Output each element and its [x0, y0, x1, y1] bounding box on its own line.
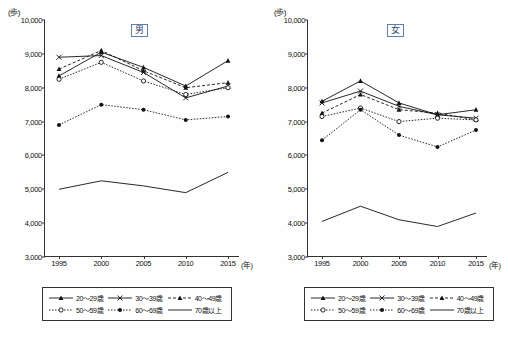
legend-male: 20～29歳30～39歳40～49歳50～59歳60～69歳70歳以上	[42, 287, 232, 321]
legend-item: 20～29歳	[48, 292, 107, 304]
x-axis-tick-mark	[476, 256, 477, 259]
legend-label: 70歳以上	[457, 305, 484, 315]
x-axis-tick-label: 2000	[94, 259, 110, 268]
legend-label: 50～59歳	[76, 305, 103, 315]
x-axis-tick-mark	[228, 256, 229, 259]
legend-marker-icon	[429, 305, 455, 315]
legend-label: 30～39歳	[397, 293, 424, 303]
legend-label: 40～49歳	[457, 293, 484, 303]
series-line	[59, 105, 228, 125]
y-axis-tick-mark	[42, 20, 45, 21]
legend-item: 70歳以上	[167, 304, 226, 316]
legend-marker-icon	[48, 305, 74, 315]
x-axis-tick-label: 1995	[314, 259, 330, 268]
legend-item: 50～59歳	[48, 304, 107, 316]
y-axis-tick-mark	[305, 20, 308, 21]
x-axis-tick-label: 2015	[468, 259, 484, 268]
legend-marker-icon	[369, 293, 395, 303]
y-axis-tick-mark	[42, 257, 45, 258]
y-axis-tick-mark	[305, 223, 308, 224]
legend-label: 50～59歳	[338, 305, 365, 315]
y-axis-tick-mark	[42, 189, 45, 190]
y-axis-tick-mark	[42, 121, 45, 122]
legend-marker-icon	[48, 293, 74, 303]
legend-marker-icon	[310, 305, 336, 315]
x-axis-tick-mark	[399, 256, 400, 259]
legend-marker-icon	[107, 305, 133, 315]
legend-label: 20～29歳	[338, 293, 365, 303]
chart-panel-female: (歩) 女 (年) 3,0004,0005,0006,0007,0008,000…	[254, 0, 508, 339]
plot-area-female: (年) 3,0004,0005,0006,0007,0008,0009,0001…	[307, 20, 487, 257]
legend-item: 70歳以上	[429, 304, 488, 316]
x-axis-tick-label: 2005	[136, 259, 152, 268]
y-axis-tick-mark	[305, 257, 308, 258]
y-axis-tick-mark	[305, 155, 308, 156]
y-axis-tick-mark	[42, 223, 45, 224]
legend-label: 70歳以上	[195, 305, 222, 315]
series-line	[322, 206, 476, 226]
x-axis-tick-mark	[101, 256, 102, 259]
x-axis-unit-label-female: (年)	[489, 259, 501, 270]
legend-label: 60～69歳	[135, 305, 162, 315]
legend-label: 60～69歳	[397, 305, 424, 315]
series-line	[59, 172, 228, 192]
x-axis-tick-mark	[59, 256, 60, 259]
x-axis-tick-label: 2005	[391, 259, 407, 268]
legend-item: 60～69歳	[107, 304, 166, 316]
y-axis-tick-mark	[42, 53, 45, 54]
y-axis-tick-mark	[42, 87, 45, 88]
x-axis-tick-label: 1995	[51, 259, 67, 268]
y-axis-unit-label-male: (歩)	[8, 6, 20, 17]
chart-panel-male: (歩) 男 (年) 3,0004,0005,0006,0007,0008,000…	[0, 0, 254, 339]
y-axis-tick-mark	[305, 121, 308, 122]
x-axis-tick-mark	[186, 256, 187, 259]
y-axis-tick-mark	[305, 189, 308, 190]
legend-label: 20～29歳	[76, 293, 103, 303]
plot-area-male: (年) 3,0004,0005,0006,0007,0008,0009,0001…	[44, 20, 239, 257]
legend-marker-icon	[107, 293, 133, 303]
legend-female: 20～29歳30～39歳40～49歳50～59歳60～69歳70歳以上	[304, 287, 494, 321]
chart-page: (歩) 男 (年) 3,0004,0005,0006,0007,0008,000…	[0, 0, 508, 339]
x-axis-tick-mark	[438, 256, 439, 259]
x-axis-tick-label: 2000	[353, 259, 369, 268]
legend-marker-icon	[429, 293, 455, 303]
legend-item: 20～29歳	[310, 292, 369, 304]
line-chart-male	[45, 20, 240, 257]
legend-marker-icon	[369, 305, 395, 315]
legend-item: 40～49歳	[429, 292, 488, 304]
legend-item: 30～39歳	[107, 292, 166, 304]
x-axis-tick-label: 2010	[178, 259, 194, 268]
legend-marker-icon	[310, 293, 336, 303]
x-axis-tick-mark	[322, 256, 323, 259]
y-axis-tick-mark	[42, 155, 45, 156]
legend-item: 30～39歳	[369, 292, 428, 304]
x-axis-unit-label-male: (年)	[241, 259, 253, 270]
legend-item: 60～69歳	[369, 304, 428, 316]
legend-item: 40～49歳	[167, 292, 226, 304]
legend-item: 50～59歳	[310, 304, 369, 316]
legend-marker-icon	[167, 293, 193, 303]
legend-label: 40～49歳	[195, 293, 222, 303]
x-axis-tick-mark	[144, 256, 145, 259]
y-axis-tick-mark	[305, 53, 308, 54]
legend-label: 30～39歳	[135, 293, 162, 303]
y-axis-tick-mark	[305, 87, 308, 88]
legend-marker-icon	[167, 305, 193, 315]
line-chart-female	[308, 20, 488, 257]
x-axis-tick-label: 2010	[430, 259, 446, 268]
x-axis-tick-label: 2015	[220, 259, 236, 268]
x-axis-tick-mark	[361, 256, 362, 259]
series-line	[322, 110, 476, 147]
